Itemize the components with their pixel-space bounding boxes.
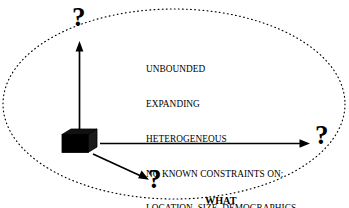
attribute-item-2: HETEROGENEOUS: [146, 134, 299, 146]
source-node-box: [62, 129, 97, 153]
caption-line-0: WHAT: [205, 194, 293, 207]
question-mark-right: ?: [315, 122, 329, 149]
attribute-item-0: UNBOUNDED: [146, 64, 299, 76]
arrow-up: [76, 41, 84, 129]
question-mark-bottom: ?: [148, 166, 162, 193]
question-mark-top: ?: [72, 4, 86, 31]
diagram-canvas: UNBOUNDED EXPANDING HETEROGENEOUS NO KNO…: [0, 0, 349, 208]
arrow-down-right: [93, 154, 149, 180]
attribute-item-1: EXPANDING: [146, 99, 299, 111]
relationship-caption: WHAT RELATIONSHIPS?: [205, 168, 293, 208]
